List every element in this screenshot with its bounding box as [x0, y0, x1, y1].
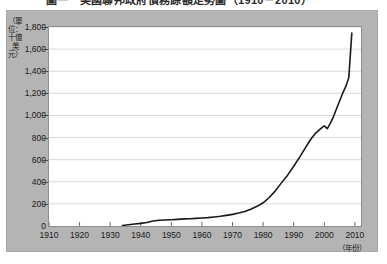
- y-tick-label: 1,000: [12, 110, 46, 120]
- data-line-series: [122, 33, 351, 225]
- y-tick-label: 1,400: [12, 66, 46, 76]
- x-tick-label: 2010: [335, 230, 375, 240]
- gridlines: [49, 27, 361, 204]
- y-tick-label: 800: [12, 133, 46, 143]
- plot-area: [48, 26, 362, 227]
- y-tick-label: 600: [12, 155, 46, 165]
- figure-title-strip: 圖一 美國聯邦政府債務餘額走勢圖（1910－2010）: [0, 0, 387, 9]
- y-tick-label: 1,600: [12, 44, 46, 54]
- x-axis-tick-labels: 1910192019301940195019601970198019902000…: [48, 230, 362, 244]
- x-axis-caption: （年份）: [338, 242, 366, 253]
- chart-panel: （單位：十億美元） 02004006008001,0001,2001,4001,…: [6, 10, 378, 252]
- page-title: 圖一 美國聯邦政府債務餘額走勢圖（1910－2010）: [46, 0, 312, 7]
- y-tick-label: 1,200: [12, 88, 46, 98]
- chart-svg: [49, 27, 361, 226]
- y-tick-label: 400: [12, 177, 46, 187]
- chart-figure: 圖一 美國聯邦政府債務餘額走勢圖（1910－2010） （單位：十億美元） 02…: [0, 0, 387, 264]
- y-tick-label: 1,800: [12, 22, 46, 32]
- y-tick-label: 200: [12, 199, 46, 209]
- y-axis-tick-labels: 02004006008001,0001,2001,4001,6001,800: [6, 26, 46, 227]
- x-axis-tick-marks: [49, 222, 355, 226]
